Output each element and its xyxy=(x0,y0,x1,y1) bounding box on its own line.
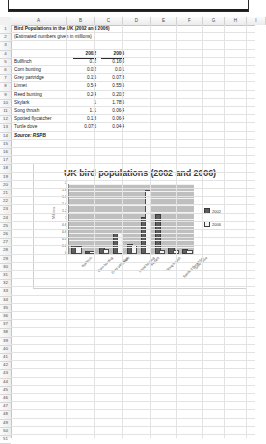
grid-row-line xyxy=(11,139,255,140)
grid-row-line xyxy=(11,40,255,41)
grid-column-line xyxy=(150,25,151,438)
grid-row-line xyxy=(11,270,255,271)
grid-row-line xyxy=(11,65,255,66)
grid-row-line xyxy=(11,352,255,353)
toolbar-strip xyxy=(8,0,249,12)
grid-row-line xyxy=(11,245,255,246)
grid-row-line xyxy=(11,213,255,214)
grid-row-line xyxy=(11,295,255,296)
grid-row-line xyxy=(11,114,255,115)
grid-row-line xyxy=(11,327,255,328)
grid-row-line xyxy=(11,163,255,164)
column-header-c[interactable]: C xyxy=(95,17,123,25)
grid-column-line xyxy=(224,25,225,438)
grid-row-line xyxy=(11,286,255,287)
grid-row-line xyxy=(11,122,255,123)
grid-row-line xyxy=(11,57,255,58)
grid-row-line xyxy=(11,418,255,419)
grid-row-line xyxy=(11,254,255,255)
row-header-51[interactable]: 51 xyxy=(0,435,11,444)
grid-row-line xyxy=(11,344,255,345)
grid-row-line xyxy=(11,131,255,132)
grid-row-line xyxy=(11,237,255,238)
toolbar-strip-inner xyxy=(9,0,248,11)
column-header-a[interactable]: A xyxy=(11,17,67,25)
grid-row-line xyxy=(11,180,255,181)
column-header-d[interactable]: D xyxy=(123,17,151,25)
column-header-b[interactable]: B xyxy=(67,17,95,25)
grid-row-line xyxy=(11,98,255,99)
legend-swatch-2006 xyxy=(204,221,210,227)
grid-row-line xyxy=(11,426,255,427)
grid-row-line xyxy=(11,172,255,173)
window-chrome xyxy=(0,0,255,16)
grid-row-line xyxy=(11,278,255,279)
grid-row-line xyxy=(11,73,255,74)
grid-row-line xyxy=(11,49,255,50)
grid-column-line xyxy=(122,25,123,438)
grid-column-line xyxy=(176,25,177,438)
grid-row-line xyxy=(11,409,255,410)
grid-row-line xyxy=(11,196,255,197)
grid-row-line xyxy=(11,147,255,148)
chart-legend-item[interactable]: 2006 xyxy=(204,221,221,227)
grid-row-line xyxy=(11,360,255,361)
grid-row-line xyxy=(11,262,255,263)
grid-row-line xyxy=(11,106,255,107)
column-header-g[interactable]: G xyxy=(203,17,225,25)
grid-row-line xyxy=(11,377,255,378)
legend-label-2006: 2006 xyxy=(212,222,221,227)
grid-row-line xyxy=(11,311,255,312)
column-header-f[interactable]: F xyxy=(177,17,203,25)
grid-row-line xyxy=(11,221,255,222)
grid-row-line xyxy=(11,393,255,394)
column-header-e[interactable]: E xyxy=(151,17,177,25)
grid-column-line xyxy=(246,25,247,438)
grid-column-line xyxy=(66,25,67,438)
grid-row-line xyxy=(11,32,255,33)
grid-row-line xyxy=(11,188,255,189)
column-header-i[interactable]: I xyxy=(247,17,266,25)
grid-row-line xyxy=(11,319,255,320)
grid-row-line xyxy=(11,303,255,304)
cell-area[interactable]: Bird Populations in the UK (2002 and 200… xyxy=(11,25,255,438)
grid-row-line xyxy=(11,434,255,435)
grid-row-line xyxy=(11,401,255,402)
column-header-h[interactable]: H xyxy=(225,17,247,25)
grid-row-line xyxy=(11,90,255,91)
grid-row-line xyxy=(11,155,255,156)
grid-row-line xyxy=(11,385,255,386)
grid-row-line xyxy=(11,229,255,230)
worksheet-grid[interactable]: ABCDEFGHI 123456789101112131415161718192… xyxy=(0,17,255,438)
grid-row-line xyxy=(11,368,255,369)
grid-row-line xyxy=(11,336,255,337)
grid-row-line xyxy=(11,204,255,205)
grid-row-line xyxy=(11,81,255,82)
grid-column-line xyxy=(94,25,95,438)
grid-column-line xyxy=(202,25,203,438)
